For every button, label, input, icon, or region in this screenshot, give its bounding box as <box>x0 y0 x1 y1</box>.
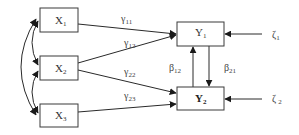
label-gamma22: γ22 <box>123 66 136 79</box>
node-x2-base: X <box>55 62 63 74</box>
node-y2: Y2 <box>177 87 224 110</box>
correlation-x2-x3 <box>32 71 38 113</box>
label-beta12: β12 <box>169 62 182 75</box>
path-x3-y2 <box>78 104 176 112</box>
node-y2-sub: 2 <box>203 98 207 106</box>
label-zeta1: ζ1 <box>272 29 280 42</box>
node-x3-base: X <box>55 109 63 121</box>
correlation-x1-x3 <box>21 19 36 115</box>
node-y1: Y1 <box>177 22 224 46</box>
node-x1-base: X <box>55 14 63 26</box>
node-y2-base: Y <box>195 92 203 104</box>
node-y1-base: Y <box>195 26 203 38</box>
node-x3: X3 <box>40 104 78 127</box>
path-diagram: X1 X2 X3 Y1 Y2 γ11 γ12 γ22 γ23 β12 β21 ζ… <box>0 0 299 135</box>
label-beta21: β21 <box>224 62 237 75</box>
node-x2: X2 <box>40 56 78 80</box>
label-gamma12: γ12 <box>123 37 136 50</box>
node-x3-sub: 3 <box>63 115 67 123</box>
node-y1-sub: 1 <box>203 32 207 40</box>
label-gamma11: γ11 <box>120 13 133 26</box>
node-x2-sub: 2 <box>63 68 67 76</box>
correlation-x1-x2 <box>32 21 38 65</box>
node-x1: X1 <box>40 8 78 32</box>
node-x1-sub: 1 <box>63 20 67 28</box>
label-zeta2: ζ2 <box>272 93 282 106</box>
label-gamma23: γ23 <box>123 90 136 103</box>
